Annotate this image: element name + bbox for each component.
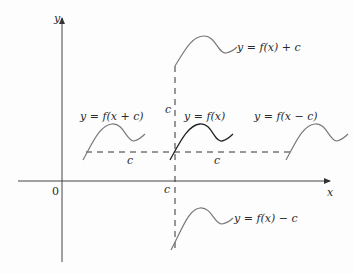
curve-label-left: y = f(x + c) (80, 111, 144, 122)
shift-label-up: c (165, 104, 171, 115)
curve-shift-right (286, 124, 348, 160)
x-axis-label: x (327, 187, 333, 198)
shift-diagram: y x 0 c c c c y = f(x) y = f(x) + c y = … (0, 0, 354, 274)
curve-shift-down (171, 208, 233, 250)
curve-label-right: y = f(x − c) (254, 111, 318, 122)
y-axis-label: y (54, 13, 60, 24)
curve-base (170, 124, 233, 160)
shift-label-right: c (214, 155, 220, 166)
curve-shift-left (83, 124, 145, 160)
curve-shift-up (175, 36, 237, 66)
shift-label-down: c (164, 184, 170, 195)
curve-label-up: y = f(x) + c (237, 42, 301, 53)
curve-label-down: y = f(x) − c (234, 213, 298, 224)
shift-label-left: c (127, 155, 133, 166)
origin-label: 0 (52, 186, 59, 197)
curve-label-base: y = f(x) (184, 111, 225, 122)
